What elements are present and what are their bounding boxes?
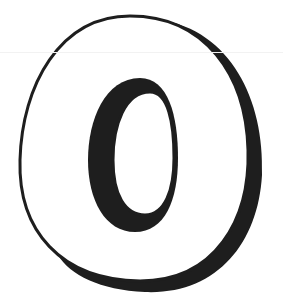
- letter-o-graphic: [0, 0, 283, 303]
- faint-guide-line: [0, 52, 283, 53]
- inner-hole-face: [113, 92, 174, 215]
- letter-o-illustration: [0, 0, 283, 303]
